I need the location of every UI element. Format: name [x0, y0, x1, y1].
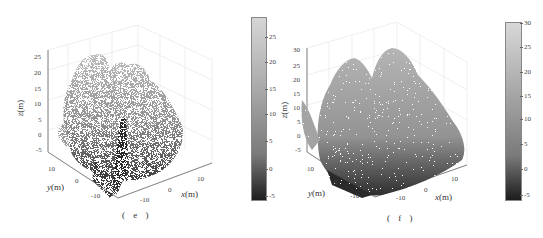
- z-tick: 10: [34, 101, 41, 108]
- z-tick: 15: [293, 91, 300, 98]
- colorbar-tick: 30: [524, 20, 531, 27]
- point-cloud-f: [301, 48, 464, 198]
- colorbar-tick: 0: [524, 166, 528, 173]
- z-tick: 5: [297, 119, 301, 126]
- y-tick: 0: [75, 178, 79, 185]
- colorbar-e: [251, 17, 267, 201]
- colorbar-tick: 20: [524, 69, 531, 76]
- z-tick: 25: [34, 54, 41, 61]
- panel-caption-f: ( f ): [387, 213, 416, 223]
- x-tick: -10: [140, 197, 149, 204]
- z-tick: 10: [293, 105, 300, 112]
- plot-f-canvas: [272, 0, 543, 238]
- y-tick: 0: [334, 179, 338, 186]
- z-axis-label: z(m): [15, 100, 25, 117]
- panel-e: 25 20 15 10 5 0 -5 z(m) 10 0 -10 y(m) -1…: [0, 0, 272, 238]
- x-tick: 0: [424, 187, 428, 194]
- z-tick: 0: [38, 132, 42, 139]
- x-axis-label: x(m): [181, 189, 198, 199]
- x-tick: 10: [197, 176, 204, 183]
- colorbar-tick: 10: [524, 116, 531, 123]
- z-axis-label: z(m): [279, 102, 289, 119]
- x-tick: 0: [168, 187, 172, 194]
- z-tick: 20: [293, 77, 300, 84]
- z-tick: 15: [34, 86, 41, 93]
- panel-caption-e: ( e ): [122, 210, 152, 220]
- colorbar-tick: 15: [524, 93, 531, 100]
- z-tick: 5: [38, 117, 42, 124]
- z-tick: 30: [293, 47, 300, 54]
- y-tick: 10: [307, 166, 314, 173]
- y-tick: 10: [48, 166, 55, 173]
- panel-f: 30 25 20 15 10 5 0 -5 z(m) 10 0 -10 y(m)…: [272, 0, 543, 238]
- z-tick: 25: [293, 63, 300, 70]
- colorbar-f: [505, 22, 522, 201]
- z-tick: 20: [34, 70, 41, 77]
- colorbar-tick: 5: [524, 141, 528, 148]
- colorbar-tick: -5: [524, 192, 530, 199]
- y-axis-label: y(m): [308, 188, 325, 198]
- x-axis-label: x(m): [435, 192, 452, 202]
- z-tick: 0: [297, 133, 301, 140]
- y-tick: -10: [350, 193, 359, 200]
- x-tick: -10: [396, 195, 405, 202]
- x-tick: 10: [451, 176, 458, 183]
- colorbar-tick: 25: [524, 44, 531, 51]
- y-axis-label: y(m): [47, 182, 64, 192]
- z-tick: -5: [36, 147, 42, 154]
- y-tick: -10: [91, 193, 100, 200]
- z-tick: -5: [295, 147, 301, 154]
